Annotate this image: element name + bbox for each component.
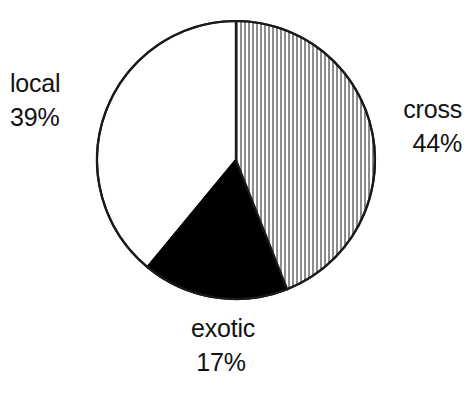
pie-label-exotic: exotic 17% (0, 311, 470, 379)
pie-label-exotic-value: 17% (0, 345, 446, 379)
pie-label-cross-name: cross (403, 92, 462, 126)
pie-label-exotic-name: exotic (0, 311, 446, 345)
pie-label-cross-value: 44% (403, 126, 462, 160)
pie-label-local: local 39% (10, 66, 60, 134)
pie-label-local-value: 39% (10, 100, 60, 134)
pie-label-cross: cross 44% (403, 92, 462, 160)
pie-label-local-name: local (10, 66, 60, 100)
pie-chart-figure: local 39% cross 44% exotic 17% (0, 0, 470, 393)
